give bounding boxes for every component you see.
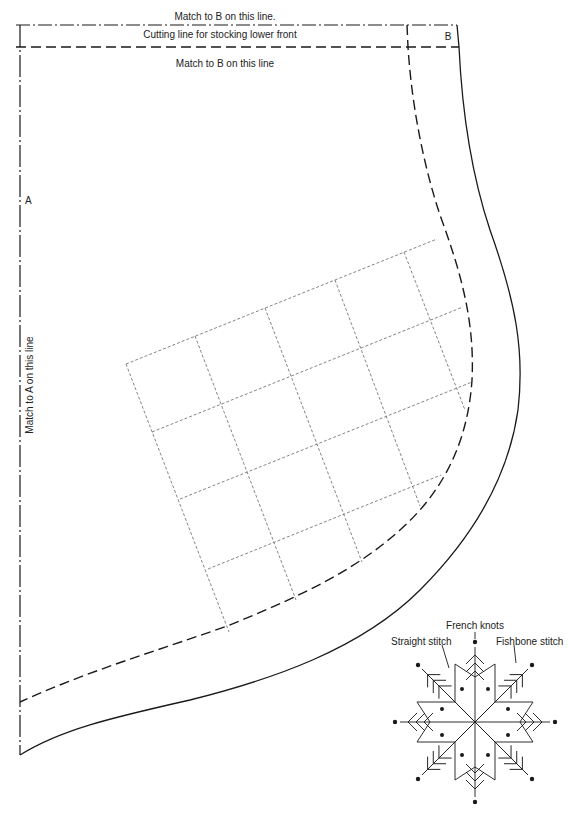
match-b-label: Match to B on this line: [176, 58, 275, 69]
cutting-line-label: Cutting line for stocking lower front: [143, 29, 297, 40]
marker-a: A: [25, 195, 32, 206]
fishbone-stitch-label: Fishbone stitch: [496, 636, 563, 647]
french-knots-label: French knots: [446, 620, 504, 631]
match-a-label: Match to A on this line: [24, 336, 35, 434]
marker-b: B: [445, 31, 452, 42]
snowflake-motif: [393, 632, 557, 804]
inner-seam-curve: [20, 25, 472, 702]
straight-stitch-label: Straight stitch: [391, 636, 452, 647]
top-match-label: Match to B on this line.: [174, 11, 275, 22]
quilting-grid: [126, 239, 472, 632]
stocking-pattern-diagram: Match to B on this line. Cutting line fo…: [0, 0, 569, 816]
